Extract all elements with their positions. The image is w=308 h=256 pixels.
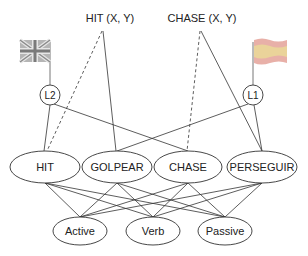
spain-flag-icon — [253, 39, 287, 86]
l1-label: L1 — [247, 90, 259, 101]
lemma-node-golpear: GOLPEAR — [82, 151, 152, 183]
svg-text:CHASE: CHASE — [169, 161, 207, 173]
edge-chasexy-chase-dashed — [187, 31, 200, 151]
svg-text:Verb: Verb — [142, 225, 165, 237]
feature-node-verb: Verb — [126, 217, 180, 245]
edge-l2-hit — [44, 105, 50, 151]
l2-node: L2 — [40, 85, 60, 105]
uk-flag-icon — [20, 40, 50, 85]
lemma-node-chase: CHASE — [154, 151, 222, 183]
bilingual-lexicon-diagram: HIT (X, Y) CHASE (X, Y) — [0, 0, 308, 256]
edge-hitxy-golpear — [103, 31, 116, 151]
feature-node-active: Active — [53, 217, 107, 245]
feature-node-passive: Passive — [198, 217, 252, 245]
concept-edges — [47, 31, 262, 151]
svg-text:HIT: HIT — [36, 161, 54, 173]
l1-node: L1 — [243, 85, 263, 105]
edge-l1-golpear — [117, 104, 248, 151]
chase-xy-label: CHASE (X, Y) — [168, 12, 237, 24]
svg-text:GOLPEAR: GOLPEAR — [90, 161, 143, 173]
language-edges — [44, 104, 262, 151]
lemma-node-hit: HIT — [10, 151, 80, 183]
hit-xy-label: HIT (X, Y) — [86, 12, 135, 24]
svg-text:Passive: Passive — [206, 225, 245, 237]
edge-l2-chase — [54, 104, 188, 151]
edge-l1-perseguir — [254, 105, 262, 151]
svg-text:PERSEGUIR: PERSEGUIR — [230, 161, 295, 173]
l2-label: L2 — [44, 90, 56, 101]
svg-text:Active: Active — [65, 225, 95, 237]
lemma-node-perseguir: PERSEGUIR — [227, 151, 297, 183]
feature-edges — [45, 183, 262, 217]
